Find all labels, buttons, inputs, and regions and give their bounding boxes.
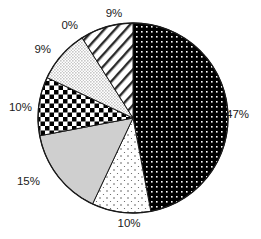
pie-slice bbox=[133, 23, 228, 211]
pie-slice-group bbox=[38, 23, 228, 213]
pie-slice-label: 9% bbox=[84, 8, 144, 20]
pie-slice-label: 10% bbox=[0, 102, 32, 114]
pie-slice-label: 47% bbox=[226, 109, 249, 121]
pie-slice-label: 9% bbox=[0, 44, 51, 56]
pie-slice-label: 0% bbox=[0, 20, 78, 32]
pie-slice-label: 15% bbox=[0, 176, 40, 188]
pie-slice-label: 10% bbox=[99, 218, 159, 230]
pie-chart-figure: 47%10%15%10%9%0%9% bbox=[0, 0, 261, 239]
pie-chart-svg bbox=[0, 0, 261, 239]
